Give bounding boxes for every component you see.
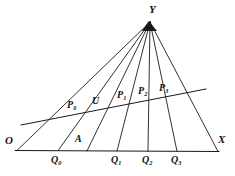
base-point-label-3: Q3 xyxy=(171,155,181,165)
ray-YO xyxy=(17,22,150,151)
apex-vertex-marker xyxy=(142,21,157,31)
ray-YQ2 xyxy=(148,22,150,151)
base-point-label-1: Q1 xyxy=(111,155,121,165)
base-point-label-2: Q2 xyxy=(142,155,152,165)
ray-pencil xyxy=(17,22,218,152)
transversal-point-label-1: U xyxy=(92,96,99,106)
transversal-line xyxy=(21,89,206,125)
point-label-a: A xyxy=(75,134,82,144)
transversal-point-label-2: P1 xyxy=(117,90,126,100)
x-axis-label-x: X xyxy=(218,134,225,145)
origin-label-o: O xyxy=(5,135,13,146)
transversal-point-label-4: P3 xyxy=(159,83,168,93)
geometry-canvas xyxy=(0,0,235,176)
transversal-segment xyxy=(21,89,206,125)
ray-YQ0 xyxy=(58,22,150,151)
transversal-point-label-3: P2 xyxy=(138,86,147,96)
base-line xyxy=(15,151,219,152)
geometry-figure: Y O X A Q0Q1Q2Q3 P0UP1P2P3 xyxy=(0,0,235,176)
base-line-segment xyxy=(15,151,219,152)
base-point-label-0: Q0 xyxy=(51,155,61,165)
transversal-point-label-0: P0 xyxy=(67,100,76,110)
apex-convergence-blob xyxy=(142,21,157,31)
apex-label-y: Y xyxy=(149,4,156,15)
